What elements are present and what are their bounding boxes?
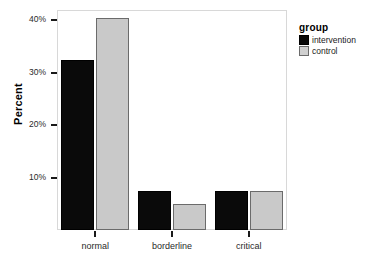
- bar-critical-intervention: [215, 191, 248, 230]
- legend-title: group: [299, 22, 365, 33]
- y-axis-title: Percent: [12, 64, 24, 144]
- legend-item-control: control: [299, 46, 365, 56]
- legend-label: intervention: [312, 35, 356, 45]
- bar-normal-control: [96, 18, 129, 230]
- x-axis-tick-mark: [94, 231, 96, 237]
- x-axis-tick-mark: [171, 231, 173, 237]
- legend-item-intervention: intervention: [299, 35, 365, 45]
- y-axis-tick-label: 40%: [29, 14, 46, 24]
- legend-label: control: [312, 46, 338, 56]
- y-axis-tick-mark: [51, 177, 57, 179]
- y-axis-tick-label: 20%: [29, 119, 46, 129]
- y-axis-tick-mark: [51, 124, 57, 126]
- bar-normal-intervention: [61, 60, 94, 230]
- legend-swatch-control: [299, 46, 309, 56]
- legend-items: interventioncontrol: [299, 35, 365, 56]
- x-axis-tick-label: critical: [199, 241, 299, 251]
- bar-borderline-intervention: [138, 191, 171, 230]
- bar-borderline-control: [173, 204, 206, 230]
- y-axis-tick-mark: [51, 72, 57, 74]
- legend: group interventioncontrol: [299, 22, 365, 57]
- x-axis-tick-mark: [248, 231, 250, 237]
- y-axis-tick-label: 10%: [29, 172, 46, 182]
- legend-swatch-intervention: [299, 35, 309, 45]
- bar-critical-control: [250, 191, 283, 230]
- y-axis-tick-label: 30%: [29, 67, 46, 77]
- bar-chart: Percent 10%20%30%40% normalborderlinecri…: [0, 0, 365, 271]
- y-axis-tick-mark: [51, 19, 57, 21]
